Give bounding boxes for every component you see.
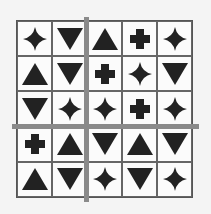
grid-cell: [17, 162, 52, 197]
triangle-down-icon: [56, 165, 84, 193]
grid-cell: [87, 162, 122, 197]
grid-cell: [122, 56, 157, 91]
triangle-up-icon: [91, 25, 119, 53]
grid-cell: [17, 91, 52, 126]
grid-cell: [122, 21, 157, 56]
grid-cell: [87, 91, 122, 126]
cross-icon: [126, 95, 154, 123]
grid-cell: [52, 162, 87, 197]
triangle-down-icon: [161, 60, 189, 88]
grid-cell: [17, 56, 52, 91]
grid-cell: [52, 127, 87, 162]
star-icon: [161, 95, 189, 123]
cross-icon: [126, 25, 154, 53]
grid-cell: [87, 127, 122, 162]
grid-cell: [157, 162, 192, 197]
grid-cell: [157, 91, 192, 126]
star-icon: [21, 25, 49, 53]
vertical-divider: [84, 17, 89, 202]
grid-cell: [52, 91, 87, 126]
horizontal-divider: [12, 124, 199, 129]
grid-cell: [17, 21, 52, 56]
star-icon: [91, 95, 119, 123]
grid-cell: [157, 21, 192, 56]
star-icon: [126, 60, 154, 88]
grid-cell: [122, 162, 157, 197]
star-icon: [56, 95, 84, 123]
grid-cell: [87, 56, 122, 91]
triangle-down-icon: [91, 130, 119, 158]
star-icon: [161, 165, 189, 193]
grid-cell: [52, 56, 87, 91]
triangle-up-icon: [21, 165, 49, 193]
triangle-up-icon: [56, 130, 84, 158]
grid-cell: [87, 21, 122, 56]
grid-cell: [17, 127, 52, 162]
triangle-down-icon: [56, 25, 84, 53]
triangle-down-icon: [161, 130, 189, 158]
triangle-down-icon: [21, 95, 49, 123]
cross-icon: [21, 130, 49, 158]
grid-cell: [122, 91, 157, 126]
shape-grid: [16, 20, 193, 198]
grid-cell: [157, 127, 192, 162]
triangle-up-icon: [126, 130, 154, 158]
grid-cell: [122, 127, 157, 162]
grid-cell: [157, 56, 192, 91]
triangle-up-icon: [21, 60, 49, 88]
star-icon: [91, 165, 119, 193]
star-icon: [161, 25, 189, 53]
triangle-down-icon: [56, 60, 84, 88]
grid-cell: [52, 21, 87, 56]
cross-icon: [91, 60, 119, 88]
triangle-down-icon: [126, 165, 154, 193]
